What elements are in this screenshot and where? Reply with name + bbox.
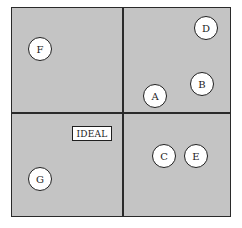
ideal-label: IDEAL: [72, 126, 112, 141]
node-g: G: [28, 167, 52, 191]
node-f: F: [28, 37, 52, 61]
node-d: D: [194, 16, 218, 40]
horizontal-divider: [11, 112, 231, 114]
node-e: E: [184, 144, 208, 168]
node-b: B: [190, 72, 214, 96]
node-a: A: [143, 84, 167, 108]
node-c: C: [152, 144, 176, 168]
